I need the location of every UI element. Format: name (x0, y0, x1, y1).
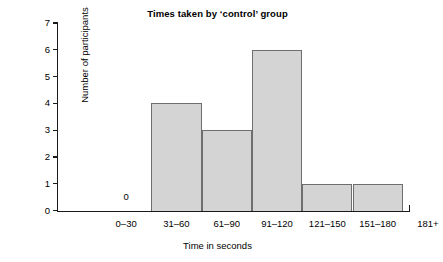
y-axis-tick-label: 0 (34, 206, 50, 216)
x-axis-tick-label: 181+ (398, 218, 443, 229)
bar (353, 184, 403, 211)
y-axis-tick (53, 49, 57, 50)
bar (302, 184, 352, 211)
y-axis-tick (53, 103, 57, 104)
bar (252, 50, 302, 211)
y-axis-tick-label: 7 (34, 18, 50, 28)
y-axis-tick (53, 22, 57, 23)
x-axis-title: Time in seconds (0, 240, 435, 251)
y-axis-tick-label: 5 (34, 72, 50, 82)
x-axis-line (57, 211, 410, 212)
y-axis-tick (53, 130, 57, 131)
y-axis-tick-label: 3 (34, 125, 50, 135)
bar (202, 130, 252, 210)
y-axis-line (57, 22, 58, 212)
y-axis-tick-label: 4 (34, 98, 50, 108)
chart-title: Times taken by ‘control’ group (0, 8, 435, 19)
x-axis-end-tick (409, 205, 410, 211)
y-axis-tick (53, 210, 57, 211)
y-axis-tick (53, 156, 57, 157)
y-axis-tick (53, 183, 57, 184)
plot-area: 01234567 0 0–3031–6061–9091–120121–15015… (57, 22, 410, 211)
bar (151, 103, 201, 210)
y-axis-tick-label: 6 (34, 45, 50, 55)
y-axis-tick-label: 1 (34, 179, 50, 189)
zero-count-annotation: 0 (114, 191, 138, 202)
y-axis-tick-label: 2 (34, 152, 50, 162)
y-axis-tick (53, 76, 57, 77)
